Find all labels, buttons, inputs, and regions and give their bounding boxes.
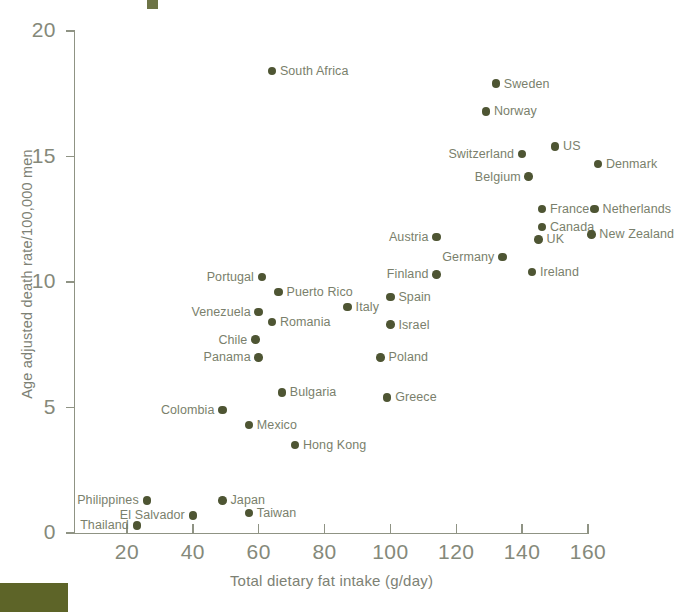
data-point (274, 288, 283, 297)
data-point (218, 496, 227, 505)
data-point (538, 223, 547, 232)
y-tick (66, 30, 75, 31)
data-point (189, 511, 198, 520)
x-tick-label: 160 (558, 540, 618, 564)
data-point (551, 142, 560, 151)
data-point-label: Poland (389, 351, 429, 364)
scan-artifact-top (147, 0, 158, 9)
data-point-label: Panama (204, 351, 251, 364)
data-point (245, 509, 254, 518)
data-point-label: Colombia (161, 404, 215, 417)
data-point (386, 320, 395, 329)
data-point-label: Netherlands (603, 203, 672, 216)
data-point-label: Sweden (504, 77, 550, 90)
data-point-label: US (563, 140, 581, 153)
data-point (254, 308, 263, 317)
data-point (343, 303, 352, 312)
data-point (254, 353, 263, 362)
data-point (528, 268, 537, 277)
data-point (245, 421, 254, 430)
data-point-label: Finland (387, 268, 429, 281)
data-point-label: Hong Kong (303, 439, 366, 452)
data-point (432, 270, 441, 279)
data-point-label: Italy (356, 301, 379, 314)
data-point-label: Belgium (475, 170, 521, 183)
x-tick-label: 140 (492, 540, 552, 564)
data-point-label: Bulgaria (290, 386, 337, 399)
x-tick (324, 524, 325, 534)
y-tick (66, 156, 75, 157)
x-tick-label: 100 (360, 540, 420, 564)
data-point (594, 160, 603, 169)
data-point (268, 318, 277, 327)
data-point (587, 230, 596, 239)
data-point-label: Thailand (80, 519, 129, 532)
data-point-label: Venezuela (191, 306, 250, 319)
x-tick-label: 20 (97, 540, 157, 564)
data-point (432, 233, 441, 242)
x-tick-label: 120 (426, 540, 486, 564)
data-point (524, 172, 533, 181)
data-point-label: Chile (218, 333, 247, 346)
data-point-label: Greece (395, 391, 437, 404)
data-point-label: Israel (398, 318, 429, 331)
data-point-label: Denmark (606, 158, 657, 171)
data-point (386, 293, 395, 302)
data-point (218, 406, 227, 415)
data-point (482, 107, 491, 116)
data-point-label: Romania (280, 316, 331, 329)
x-tick-label: 80 (295, 540, 355, 564)
data-point-label: South Africa (280, 65, 349, 78)
data-point-label: Norway (494, 105, 537, 118)
data-point (492, 79, 501, 88)
y-axis-title: Age adjusted death rate/100,000 men (19, 64, 35, 484)
y-tick (66, 281, 75, 282)
data-point (518, 150, 527, 159)
data-point (143, 496, 152, 505)
x-axis-title: Total dietary fat intake (g/day) (74, 572, 589, 589)
x-tick (258, 524, 259, 534)
data-point-label: Switzerland (448, 148, 514, 161)
data-point (291, 441, 300, 450)
data-point (133, 521, 142, 530)
y-tick (66, 532, 75, 533)
x-tick (521, 524, 522, 534)
x-tick (390, 524, 391, 534)
data-point-label: Austria (389, 231, 429, 244)
data-point-label: Portugal (207, 271, 254, 284)
data-point (278, 388, 287, 397)
data-point-label: Germany (442, 251, 494, 264)
x-tick (587, 524, 588, 534)
data-point-label: Puerto Rico (286, 286, 352, 299)
data-point (498, 253, 507, 262)
data-point-label: Mexico (257, 419, 297, 432)
data-point-label: El Salvador (120, 509, 185, 522)
data-point (258, 273, 267, 282)
x-tick-label: 60 (229, 540, 289, 564)
data-point-label: New Zealand (599, 228, 674, 241)
data-point-label: Ireland (540, 266, 579, 279)
data-point (534, 235, 543, 244)
x-tick-label: 40 (163, 540, 223, 564)
y-tick (66, 407, 75, 408)
data-point-label: UK (547, 233, 565, 246)
data-point (538, 205, 547, 214)
x-axis-line (74, 533, 589, 534)
data-point-label: France (550, 203, 590, 216)
scan-artifact-bottom-left (0, 583, 68, 612)
x-tick (456, 524, 457, 534)
y-tick-label: 0 (14, 520, 56, 544)
data-point-label: Taiwan (257, 507, 297, 520)
data-point (376, 353, 385, 362)
y-tick-label: 20 (14, 18, 56, 42)
x-tick (192, 524, 193, 534)
data-point (268, 67, 277, 76)
data-point (251, 335, 260, 344)
data-point-label: Spain (398, 291, 430, 304)
data-point (590, 205, 599, 214)
data-point (383, 393, 392, 402)
data-point-label: Philippines (77, 494, 139, 507)
